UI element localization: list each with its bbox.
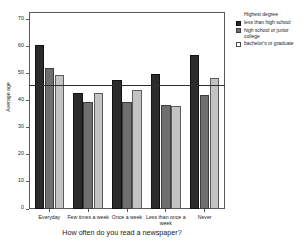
- legend-title: Highest degree: [244, 11, 304, 17]
- bar[interactable]: [171, 106, 181, 209]
- x-tick-label: Few times a week: [67, 214, 109, 220]
- x-tick-label: Less than once a week: [145, 214, 187, 226]
- y-tick-label: 20: [18, 150, 24, 156]
- bar[interactable]: [73, 93, 83, 209]
- bar-group: [151, 13, 181, 209]
- legend-item[interactable]: high school or junior college: [236, 28, 304, 40]
- bar[interactable]: [190, 55, 200, 209]
- x-tick-mark: [49, 209, 50, 212]
- bar-series-layer: [30, 13, 224, 209]
- bar-group: [73, 13, 103, 209]
- x-tick-mark: [127, 209, 128, 212]
- bar-group: [35, 13, 65, 209]
- legend-label: bachelor's or graduate: [244, 41, 294, 47]
- bar[interactable]: [45, 68, 55, 209]
- y-tick-label: 40: [18, 96, 24, 102]
- x-axis-title: How often do you read a newspaper?: [0, 228, 244, 237]
- bar-group: [190, 13, 220, 209]
- bar-group: [112, 13, 142, 209]
- x-tick-label: Once a week: [106, 214, 148, 220]
- bar[interactable]: [112, 80, 122, 209]
- bar[interactable]: [35, 45, 45, 209]
- legend-item[interactable]: less than high school: [236, 20, 304, 26]
- legend-swatch: [236, 42, 241, 47]
- x-tick-mark: [204, 209, 205, 212]
- bar[interactable]: [132, 90, 142, 209]
- x-tick-mark: [165, 209, 166, 212]
- bar[interactable]: [200, 95, 210, 209]
- bar[interactable]: [151, 74, 161, 209]
- bar[interactable]: [83, 102, 93, 209]
- y-tick-label: 60: [18, 42, 24, 48]
- y-tick-label: 0: [21, 204, 24, 210]
- reference-line: [29, 85, 225, 86]
- legend: Highest degree less than high schoolhigh…: [236, 11, 304, 49]
- y-tick-label: 10: [18, 177, 24, 183]
- x-tick-label: Never: [184, 214, 226, 220]
- legend-item[interactable]: bachelor's or graduate: [236, 41, 304, 47]
- bar[interactable]: [210, 78, 220, 209]
- x-tick-mark: [88, 209, 89, 212]
- y-axis-title: Average age: [5, 71, 11, 123]
- y-tick-label: 50: [18, 69, 24, 75]
- legend-label: less than high school: [244, 20, 291, 26]
- bar[interactable]: [55, 75, 65, 209]
- y-tick-label: 30: [18, 123, 24, 129]
- bar[interactable]: [161, 105, 171, 209]
- y-tick-label: 70: [18, 15, 24, 21]
- x-tick-label: Everyday: [28, 214, 70, 220]
- chart-container: 010203040506070 Average age EverydayFew …: [0, 0, 304, 248]
- bar[interactable]: [122, 102, 132, 209]
- legend-swatch: [236, 21, 241, 26]
- legend-swatch: [236, 28, 241, 33]
- legend-label: high school or junior college: [244, 28, 304, 40]
- bar[interactable]: [94, 93, 104, 209]
